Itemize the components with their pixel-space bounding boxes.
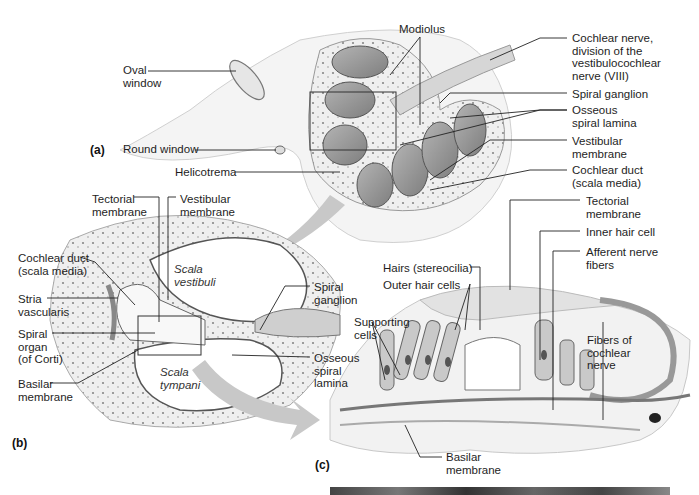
panel-label-b: (b) [12,436,27,450]
label-fibers-of-cochlear-nerve: Fibers of cochlear nerve [587,334,632,372]
cochlea-figure: Modiolus Cochlear nerve, division of the… [0,0,699,495]
label-oval-window: Oval window [123,64,161,89]
label-tectorial-membrane-c: Tectorial membrane [586,195,641,220]
label-vestibular-membrane-a: Vestibular membrane [572,135,627,160]
label-hairs-stereocilia: Hairs (stereocilia) [383,262,472,275]
label-osseous-spiral-lamina-b: Osseous spiral lamina [314,352,359,390]
label-basilar-membrane-b: Basilar membrane [18,378,73,403]
label-round-window: Round window [123,143,198,156]
panel-b-drawing [50,215,340,427]
label-cochlear-duct-a: Cochlear duct (scala media) [572,164,643,189]
label-afferent-nerve-fibers: Afferent nerve fibers [586,246,658,271]
panel-label-a: (a) [90,143,105,157]
label-scala-tympani: Scala tympani [160,366,200,391]
panel-c-drawing [330,286,690,453]
label-cochlear-nerve: Cochlear nerve, division of the vestibul… [572,32,661,82]
label-osseous-spiral-lamina-a: Osseous spiral lamina [572,104,637,129]
label-cochlear-duct-b: Cochlear duct (scala media) [18,252,89,277]
label-outer-hair-cells: Outer hair cells [383,279,460,292]
label-supporting-cells: Supporting cells [354,316,410,341]
label-scala-vestibuli: Scala vestibuli [174,263,216,288]
label-vestibular-membrane-b: Vestibular membrane [180,193,235,218]
panel-label-c: (c) [315,458,330,472]
label-inner-hair-cell: Inner hair cell [586,226,655,239]
label-spiral-ganglion-a: Spiral ganglion [572,88,648,101]
cropped-micrograph-strip [330,487,670,495]
label-stria-vascularis: Stria vascularis [18,293,69,318]
label-modiolus: Modiolus [399,23,445,36]
label-basilar-membrane-c: Basilar membrane [446,451,501,476]
label-tectorial-membrane-b: Tectorial membrane [92,193,147,218]
label-spiral-ganglion-b: Spiral ganglion [314,281,357,306]
label-spiral-organ: Spiral organ (of Corti) [18,328,63,366]
label-helicotrema: Helicotrema [175,166,236,179]
